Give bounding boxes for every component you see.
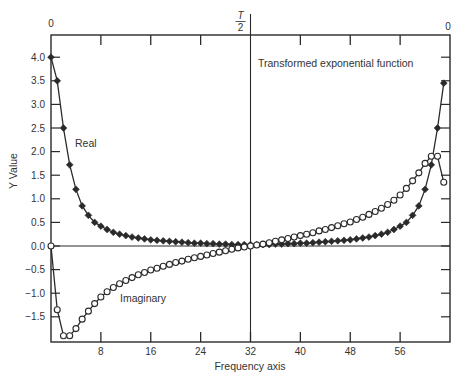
data-point-diamond <box>110 229 117 236</box>
data-point-circle <box>98 294 104 300</box>
data-point-circle <box>304 231 310 237</box>
y-tick-label: 0.0 <box>31 241 45 252</box>
data-point-diamond <box>347 236 354 243</box>
data-point-circle <box>410 178 416 184</box>
data-point-circle <box>73 326 79 332</box>
data-point-circle <box>378 205 384 211</box>
top-label-zero-right: 0 <box>445 21 451 32</box>
data-point-diamond <box>397 223 404 230</box>
data-point-circle <box>241 244 247 250</box>
data-point-circle <box>204 252 210 258</box>
data-point-circle <box>229 246 235 252</box>
data-point-circle <box>310 230 316 236</box>
data-point-circle <box>372 209 378 215</box>
data-point-diamond <box>341 237 348 244</box>
y-tick-label: 1.5 <box>31 170 45 181</box>
data-point-circle <box>329 225 335 231</box>
data-point-diamond <box>384 229 391 236</box>
data-point-diamond <box>415 202 422 209</box>
data-point-diamond <box>353 236 360 243</box>
top-label-half-period-numerator: T <box>237 10 244 21</box>
data-point-circle <box>441 179 447 185</box>
data-point-circle <box>223 248 229 254</box>
data-point-circle <box>142 269 148 275</box>
data-point-circle <box>191 255 197 261</box>
y-axis-label: Y Value <box>7 153 19 189</box>
data-point-circle <box>428 153 434 159</box>
data-point-circle <box>360 214 366 220</box>
data-point-circle <box>166 261 172 267</box>
data-point-diamond <box>97 223 104 230</box>
data-point-circle <box>260 241 266 247</box>
data-point-diamond <box>104 226 111 233</box>
chart-title: Transformed exponential function <box>258 57 414 69</box>
data-point-circle <box>279 237 285 243</box>
data-point-circle <box>117 281 123 287</box>
data-point-circle <box>123 277 129 283</box>
data-point-diamond <box>79 202 86 209</box>
data-point-circle <box>266 240 272 246</box>
data-point-circle <box>104 289 110 295</box>
data-point-diamond <box>60 125 67 132</box>
data-point-diamond <box>434 125 441 132</box>
data-point-circle <box>291 234 297 240</box>
y-tick-label: 1.0 <box>31 193 45 204</box>
y-tick-label: 3.5 <box>31 75 45 86</box>
y-tick-label: 3.0 <box>31 99 45 110</box>
data-point-circle <box>297 233 303 239</box>
data-point-diamond <box>185 239 192 246</box>
data-point-circle <box>154 265 160 271</box>
data-point-diamond <box>160 237 167 244</box>
data-point-circle <box>347 219 353 225</box>
x-tick-label: 40 <box>295 346 307 357</box>
data-point-circle <box>148 267 154 273</box>
data-point-circle <box>210 251 216 257</box>
y-tick-label: −0.5 <box>25 264 45 275</box>
series-line <box>51 57 444 244</box>
x-tick-label: 32 <box>245 346 257 357</box>
chart: 816243240485600T24.03.53.02.52.01.51.00.… <box>0 0 464 385</box>
imaginary-series-label: Imaginary <box>120 292 167 304</box>
data-point-circle <box>322 226 328 232</box>
data-point-diamond <box>390 226 397 233</box>
data-point-circle <box>67 333 73 339</box>
data-point-diamond <box>54 77 61 84</box>
data-point-circle <box>366 211 372 217</box>
data-point-circle <box>216 249 222 255</box>
data-point-diamond <box>328 238 335 245</box>
data-point-circle <box>92 301 98 307</box>
data-point-diamond <box>122 232 129 239</box>
data-point-circle <box>403 185 409 191</box>
data-point-circle <box>435 153 441 159</box>
data-point-diamond <box>129 234 136 241</box>
data-point-diamond <box>135 235 142 242</box>
top-label-zero-left: 0 <box>48 18 54 29</box>
x-axis-label: Frequency axis <box>214 360 285 372</box>
y-tick-label: 0.5 <box>31 217 45 228</box>
x-tick-label: 8 <box>98 346 104 357</box>
y-tick-label: −1.5 <box>25 311 45 322</box>
data-point-circle <box>416 170 422 176</box>
data-point-diamond <box>154 237 161 244</box>
data-point-circle <box>272 238 278 244</box>
data-point-diamond <box>378 231 385 238</box>
y-tick-label: 2.5 <box>31 123 45 134</box>
data-point-diamond <box>147 236 154 243</box>
data-point-circle <box>129 275 135 281</box>
data-point-circle <box>285 235 291 241</box>
data-point-diamond <box>73 186 80 193</box>
data-point-diamond <box>428 161 435 168</box>
data-point-diamond <box>48 54 55 61</box>
data-point-circle <box>391 197 397 203</box>
data-point-circle <box>160 263 166 269</box>
data-point-circle <box>248 243 254 249</box>
x-tick-label: 16 <box>145 346 157 357</box>
top-label-half-period-denominator: 2 <box>238 22 244 33</box>
data-point-diamond <box>422 186 429 193</box>
data-point-diamond <box>316 239 323 246</box>
series-real <box>48 54 448 248</box>
data-point-diamond <box>366 234 373 241</box>
data-point-circle <box>353 217 359 223</box>
data-point-circle <box>422 160 428 166</box>
data-point-circle <box>316 228 322 234</box>
